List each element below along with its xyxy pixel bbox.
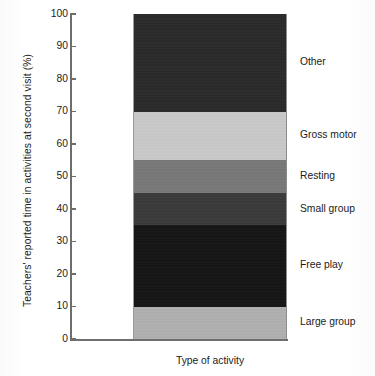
bar-segment-resting <box>134 160 286 193</box>
y-tick-label-90: 90 <box>57 41 68 51</box>
y-tick-label-100: 100 <box>51 9 68 19</box>
bar-segment-gross-motor <box>134 112 286 161</box>
segment-label-resting: Resting <box>300 171 335 181</box>
segment-label-free-play: Free play <box>300 260 343 270</box>
y-tick-70 <box>70 111 76 113</box>
y-tick-10 <box>70 306 76 308</box>
y-tick-100 <box>70 13 76 15</box>
y-tick-label-40: 40 <box>57 204 68 214</box>
stacked-bar-chart: Teachers' reported time in activities at… <box>0 0 375 376</box>
segment-label-gross-motor: Gross motor <box>300 130 357 140</box>
y-tick-label-30: 30 <box>57 236 68 246</box>
y-tick-30 <box>70 241 76 243</box>
y-tick-label-60: 60 <box>57 139 68 149</box>
x-axis-title: Type of activity <box>133 355 287 366</box>
y-tick-0 <box>70 338 76 340</box>
segment-label-large-group: Large group <box>300 317 356 327</box>
segment-label-small-group: Small group <box>300 204 355 214</box>
y-tick-label-70: 70 <box>57 106 68 116</box>
segment-label-other: Other <box>300 57 326 67</box>
y-tick-90 <box>70 46 76 48</box>
y-tick-80 <box>70 78 76 80</box>
y-tick-label-0: 0 <box>62 334 68 344</box>
x-axis-line <box>70 339 288 341</box>
y-tick-60 <box>70 143 76 145</box>
bar-segment-free-play <box>134 225 286 306</box>
bar-segment-small-group <box>134 193 286 226</box>
y-tick-20 <box>70 273 76 275</box>
y-tick-label-80: 80 <box>57 74 68 84</box>
y-tick-label-10: 10 <box>57 301 68 311</box>
y-tick-label-50: 50 <box>57 171 68 181</box>
bar-segment-large-group <box>134 307 286 340</box>
y-tick-label-20: 20 <box>57 269 68 279</box>
plot-area: 0102030405060708090100 OtherGross motorR… <box>0 0 375 376</box>
stacked-bar <box>133 14 287 339</box>
bar-segment-other <box>134 14 286 112</box>
y-tick-50 <box>70 176 76 178</box>
y-tick-40 <box>70 208 76 210</box>
